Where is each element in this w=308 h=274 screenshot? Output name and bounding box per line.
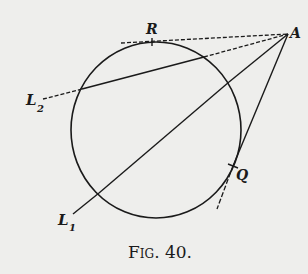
secant-L1-to-A (229, 34, 288, 82)
label-L2-subscript: 2 (36, 103, 44, 114)
label-L1-subscript: 1 (69, 222, 76, 233)
geometry-figure: A R Q L 2 L 1 FIG. 40. (0, 0, 308, 274)
label-Q: Q (236, 167, 248, 183)
label-A: A (288, 25, 301, 41)
circle (71, 42, 241, 218)
secant-L2-to-A (204, 34, 288, 57)
figure-caption: FIG. 40. (128, 242, 192, 262)
secant-L2-outer (43, 89, 82, 99)
secant-L2-chord (82, 57, 204, 89)
secant-L1-chord (99, 82, 229, 193)
label-L1: L (57, 211, 69, 229)
tangent-line-Q (233, 34, 288, 166)
secant-L1-outer (73, 193, 99, 214)
label-R: R (145, 21, 158, 37)
label-L2: L (25, 91, 37, 109)
